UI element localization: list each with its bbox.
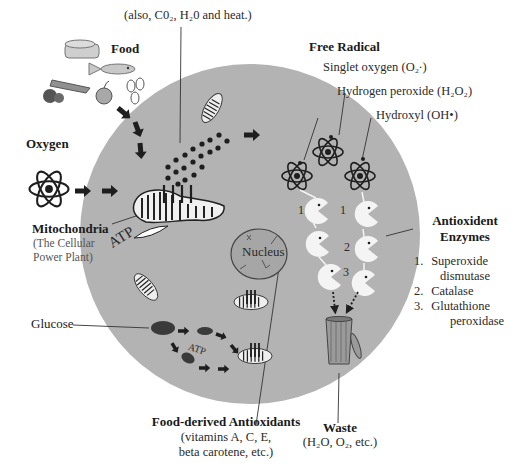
enzyme-item: 1. Superoxide bbox=[414, 254, 504, 269]
food-antioxidants-sub-2: beta carotene, etc.) bbox=[146, 445, 306, 460]
enzyme-item: 3. Glutathione bbox=[414, 299, 504, 314]
food-antioxidants-sub-1: (vitamins A, C, E, bbox=[146, 430, 306, 445]
food-label: Food bbox=[111, 41, 139, 56]
singlet-oxygen-label: Singlet oxygen (O₂·) bbox=[323, 60, 427, 75]
enzyme-item-cont: dismutase bbox=[414, 269, 504, 284]
hydrogen-peroxide-label: Hydrogen peroxide (H₂O₂) bbox=[337, 84, 472, 99]
enzymes-title-1: Antioxident bbox=[415, 213, 515, 228]
byproducts-label: (also, C0₂, H₂0 and heat.) bbox=[124, 8, 252, 23]
enzymes-title-2: Enzymes bbox=[415, 229, 515, 244]
enzyme-number: 3 bbox=[343, 265, 349, 280]
free-radical-label: Free Radical bbox=[309, 39, 380, 54]
mitochondria-subtitle-2: Power Plant) bbox=[33, 250, 93, 265]
nucleus-label: Nucleus bbox=[242, 244, 285, 259]
enzyme-number: 2 bbox=[344, 240, 350, 255]
glucose-label: Glucose bbox=[31, 316, 74, 331]
enzyme-number: 1 bbox=[340, 203, 346, 218]
hydroxyl-label: Hydroxyl (OH•) bbox=[376, 108, 458, 123]
mitochondria-label: Mitochondria bbox=[32, 221, 109, 236]
waste-title: Waste bbox=[290, 420, 390, 435]
mitochondria-subtitle-1: (The Cellular bbox=[33, 236, 95, 251]
enzyme-item: 2. Catalase bbox=[414, 284, 504, 299]
enzyme-number: 1 bbox=[298, 203, 304, 218]
enzyme-list: 1. Superoxide dismutase 2. Catalase 3. G… bbox=[414, 254, 504, 329]
food-antioxidants-title: Food-derived Antioxidants bbox=[146, 414, 306, 429]
enzyme-item-cont: peroxidase bbox=[414, 314, 504, 329]
oxygen-label: Oxygen bbox=[26, 136, 69, 151]
waste-sub: (H₂O, O₂, etc.) bbox=[290, 435, 390, 450]
